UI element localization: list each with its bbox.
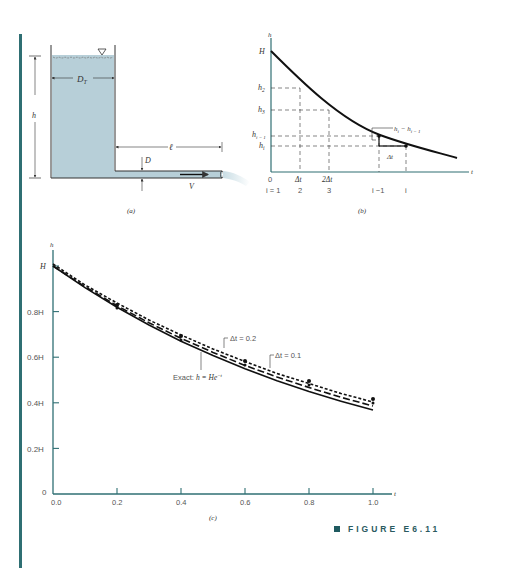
pipe-length-label: ℓ [169, 142, 173, 152]
c-xtick-08: 0.8 [304, 498, 314, 507]
c-data-markers [115, 303, 375, 405]
b-xtick-dt: Δt [294, 175, 302, 184]
c-xtick-10: 1.0 [368, 498, 378, 507]
panel-c-solution-plot: h t H 0.8H 0.6H 0.4H 0.2H 0 [27, 241, 397, 522]
c-xtick-02: 0.2 [112, 498, 122, 507]
c-x-axis-label: t [394, 490, 397, 498]
c-xtick-04: 0.4 [176, 498, 186, 507]
b-itick-i: i [405, 186, 407, 195]
c-ytick-06H: 0.6H [27, 353, 44, 362]
panel-b-discretization-sketch: h t hi − hi − 1 Δt H h2 h3 hi − 1 [252, 31, 474, 215]
c-annotation-dt01: Δt = 0.1 [275, 351, 301, 360]
c-annotation-exact: Exact: h = He−t [173, 373, 223, 382]
b-x-axis-label: t [471, 168, 474, 176]
c-curve-dt01 [53, 266, 373, 406]
c-xtick-0: 0.0 [51, 498, 61, 507]
b-itick-3: 3 [327, 186, 331, 195]
b-ytick-h3: h3 [258, 105, 265, 115]
caption-square-icon [334, 526, 340, 532]
b-itick-im1: i −1 [372, 186, 384, 195]
c-annotation-dt02: Δt = 0.2 [230, 334, 256, 343]
b-dt-annotation: Δt [386, 153, 394, 161]
b-xtick-0: 0 [268, 175, 272, 184]
c-ytick-02H: 0.2H [27, 445, 44, 454]
panel-b-label: (b) [358, 207, 367, 215]
free-surface-triangle-icon [98, 49, 106, 55]
b-ytick-h2: h2 [258, 83, 265, 93]
c-xtick-06: 0.6 [240, 498, 250, 507]
b-ytick-him1: hi − 1 [252, 130, 266, 140]
outflow-jet [223, 171, 250, 186]
b-ytick-hi: hi [259, 141, 265, 151]
c-ytick-08H: 0.8H [27, 308, 44, 317]
panel-c-label: (c) [209, 514, 217, 522]
figure-page: h DT ℓ D V (a) h t [0, 0, 505, 568]
figure-svg: h DT ℓ D V (a) h t [0, 0, 505, 568]
panel-a-label: (a) [127, 207, 136, 215]
b-itick-1: i = 1 [266, 186, 280, 195]
c-ytick-0: 0 [42, 488, 47, 497]
panel-a-tank-diagram: h DT ℓ D V (a) [29, 45, 250, 215]
figure-caption: FIGURE E6.11 [334, 524, 440, 534]
caption-text: FIGURE E6.11 [348, 524, 440, 534]
h-dimension-label: h [32, 111, 36, 120]
c-y-axis-label: h [50, 241, 54, 249]
b-y-axis-label: h [268, 31, 272, 39]
b-xtick-2dt: 2Δt [322, 175, 333, 184]
pipe-diameter-label: D [144, 156, 151, 165]
velocity-label: V [189, 182, 195, 191]
b-ytick-H: H [258, 47, 266, 56]
b-diff-annotation: hi − hi − 1 [394, 125, 420, 134]
c-ytick-H: H [39, 262, 47, 271]
c-ytick-04H: 0.4H [27, 399, 44, 408]
b-decay-curve [271, 51, 457, 158]
b-itick-2: 2 [298, 186, 302, 195]
